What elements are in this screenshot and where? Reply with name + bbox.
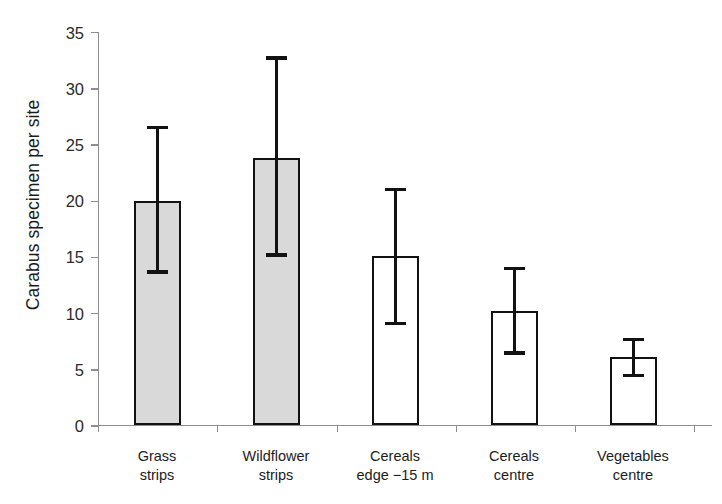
x-tick-5 [694,425,695,432]
error-bar-stem [275,56,278,256]
y-axis-title: Carabus specimen per site [16,0,50,420]
y-tick-label-5: 5 [75,360,84,379]
x-axis-label-line1: Wildflower [243,448,310,464]
y-tick-label-30: 30 [66,79,84,98]
x-axis-label-line2: strips [216,466,336,485]
x-tick-3 [456,425,457,432]
error-bar-cap-bottom [623,374,644,377]
error-bar-cap-top [266,56,287,59]
error-bar-cap-bottom [385,322,406,325]
error-bar-stem [513,267,516,355]
y-tick-0: 0 [91,425,98,426]
x-tick-1 [217,425,218,432]
plot-area: 35 30 25 20 15 10 5 0 [98,32,712,426]
x-tick-2 [337,425,338,432]
x-axis-label-line2: strips [97,466,217,485]
bar-chart-figure: Carabus specimen per site 35 30 25 20 15… [0,0,722,504]
y-tick-25: 25 [91,144,98,145]
y-axis-line [98,32,99,426]
y-tick-30: 30 [91,88,98,89]
error-bar-cap-bottom [266,253,287,256]
y-tick-label-25: 25 [66,136,84,155]
error-bar-stem [394,188,397,325]
x-axis-label-wildflower-strips: Wildflower strips [216,447,336,485]
y-tick-5: 5 [91,369,98,370]
error-bar-cereals-centre [491,267,538,355]
x-axis-label-line1: Vegetables [597,448,669,464]
y-tick-label-0: 0 [75,417,84,436]
y-tick-35: 35 [91,32,98,33]
error-bar-cap-bottom [147,270,168,273]
error-bar-grass-strips [134,126,181,274]
error-bar-cap-top [504,267,525,270]
x-axis-label-cereals-centre: Cereals centre [454,447,574,485]
x-axis-label-vegetables-centre: Vegetables centre [573,447,693,485]
y-tick-label-20: 20 [66,192,84,211]
y-tick-15: 15 [91,257,98,258]
error-bar-cap-top [623,338,644,341]
error-bar-cereals-edge [372,188,419,325]
error-bar-stem [632,338,635,377]
x-axis-label-line2: edge −15 m [335,466,455,485]
y-tick-10: 10 [91,313,98,314]
x-axis-label-line1: Grass [138,448,177,464]
x-axis-label-cereals-edge: Cereals edge −15 m [335,447,455,485]
y-tick-20: 20 [91,201,98,202]
error-bar-stem [156,126,159,274]
x-axis-label-grass-strips: Grass strips [97,447,217,485]
y-tick-label-15: 15 [66,248,84,267]
y-tick-label-10: 10 [66,304,84,323]
error-bar-wildflower-strips [253,56,300,256]
y-tick-label-35: 35 [66,23,84,42]
x-axis-label-line1: Cereals [489,448,539,464]
x-tick-0 [98,425,99,432]
x-tick-4 [575,425,576,432]
x-axis-label-line2: centre [573,466,693,485]
error-bar-vegetables-centre [610,338,657,377]
x-axis-label-line2: centre [454,466,574,485]
x-axis-label-line1: Cereals [370,448,420,464]
error-bar-cap-top [385,188,406,191]
error-bar-cap-bottom [504,351,525,354]
error-bar-cap-top [147,126,168,129]
